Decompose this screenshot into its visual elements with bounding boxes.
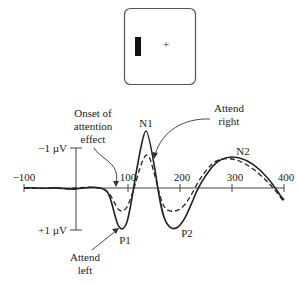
y-label-top: −1 µV <box>38 142 67 154</box>
onset-label-line2: attention <box>74 120 113 132</box>
x-label--100: −100 <box>13 171 36 183</box>
attend-left-line1: Attend <box>70 251 100 263</box>
x-label-200: 200 <box>174 171 191 183</box>
attend-right-line1: Attend <box>214 102 244 114</box>
peak-label-p1: P1 <box>119 234 131 246</box>
peak-label-p2: P2 <box>181 227 193 239</box>
stimulus-bar <box>135 37 141 56</box>
attend-left-arrow <box>92 230 117 250</box>
y-label-bottom: +1 µV <box>38 224 67 236</box>
onset-arrow <box>94 148 117 185</box>
onset-arrowhead-icon <box>113 181 119 187</box>
annotation-onset: Onset of attention effect <box>74 107 119 187</box>
attend-right-arrow <box>155 119 210 155</box>
annotation-attend-left: Attend left <box>70 228 119 276</box>
erp-diagram: + −100 100 200 300 400 −1 µV +1 µV N1 N2… <box>0 0 298 285</box>
peak-label-n2: N2 <box>236 145 249 157</box>
stimulus-display: + <box>125 9 196 85</box>
fixation-cross: + <box>163 38 169 50</box>
x-label-300: 300 <box>227 171 244 183</box>
attend-right-line2: right <box>219 115 240 127</box>
onset-label-line1: Onset of <box>74 107 112 119</box>
x-label-400: 400 <box>278 171 295 183</box>
attend-left-line2: left <box>78 264 93 276</box>
peak-label-n1: N1 <box>139 117 152 129</box>
annotation-attend-right: Attend right <box>152 102 244 159</box>
onset-label-line3: effect <box>81 133 106 145</box>
